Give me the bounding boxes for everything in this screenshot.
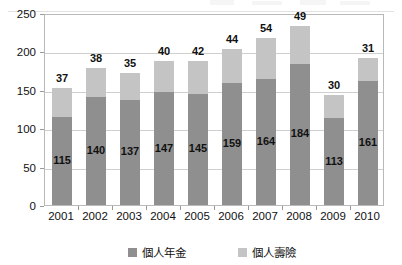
bar-group[interactable]: 14542 — [188, 61, 208, 205]
bar-group[interactable]: 13735 — [120, 73, 140, 205]
bar-segment-life[interactable] — [256, 38, 276, 79]
bar-group[interactable]: 11537 — [52, 88, 72, 205]
bar-value-annuity: 140 — [86, 145, 106, 156]
bar-value-life: 42 — [182, 46, 214, 57]
bar-value-annuity: 137 — [120, 146, 140, 157]
bars-container: 1153714038137351474014542159441645418449… — [45, 15, 383, 205]
y-axis-tick-mark — [40, 206, 44, 207]
bar-value-life: 44 — [216, 34, 248, 45]
bar-value-annuity: 145 — [188, 143, 208, 154]
x-axis-tick-label: 2002 — [82, 210, 108, 222]
bar-group[interactable]: 14740 — [154, 61, 174, 205]
bar-value-life: 30 — [318, 80, 350, 91]
bar-group[interactable]: 16131 — [358, 58, 378, 205]
bar-value-life: 31 — [352, 43, 384, 54]
bar-group[interactable]: 14038 — [86, 68, 106, 205]
bar-value-annuity: 147 — [154, 143, 174, 154]
legend-swatch — [238, 248, 247, 257]
x-axis-tick-mark — [78, 206, 79, 210]
legend-swatch — [128, 248, 137, 257]
y-axis-tick-label: 150 — [2, 85, 36, 97]
x-axis-tick-mark — [350, 206, 351, 210]
bar-value-annuity: 184 — [290, 128, 310, 139]
bar-value-annuity: 159 — [222, 138, 242, 149]
x-axis-tick-label: 2007 — [252, 210, 278, 222]
bar-value-life: 38 — [80, 53, 112, 64]
x-axis-tick-label: 2009 — [320, 210, 346, 222]
legend-item[interactable]: 個人年金 — [128, 245, 186, 259]
x-axis-tick-label: 2005 — [184, 210, 210, 222]
bar-segment-life[interactable] — [290, 26, 310, 64]
x-axis-tick-mark — [248, 206, 249, 210]
bar-segment-life[interactable] — [52, 88, 72, 116]
y-axis-tick-label: 200 — [2, 46, 36, 58]
bar-group[interactable]: 11330 — [324, 95, 344, 205]
x-axis-tick-mark — [180, 206, 181, 210]
x-axis-tick-label: 2010 — [354, 210, 380, 222]
x-axis-tick-mark — [214, 206, 215, 210]
bar-value-life: 37 — [46, 73, 78, 84]
y-axis-tick-label: 100 — [2, 123, 36, 135]
bar-segment-life[interactable] — [222, 49, 242, 83]
bar-value-annuity: 113 — [324, 156, 344, 167]
bar-group[interactable]: 16454 — [256, 38, 276, 205]
y-axis-tick-label: 0 — [2, 200, 36, 212]
x-axis-tick-label: 2006 — [218, 210, 244, 222]
bar-group[interactable]: 18449 — [290, 26, 310, 205]
bar-segment-life[interactable] — [358, 58, 378, 82]
x-axis-tick-mark — [282, 206, 283, 210]
stacked-bar-chart: 050100150200250 115371403813735147401454… — [0, 0, 402, 265]
bar-segment-life[interactable] — [188, 61, 208, 93]
x-axis-tick-label: 2003 — [116, 210, 142, 222]
y-axis-tick-label: 50 — [2, 162, 36, 174]
plot-area: 1153714038137351474014542159441645418449… — [44, 14, 384, 206]
y-axis-tick-label: 250 — [2, 8, 36, 20]
x-axis-tick-mark — [112, 206, 113, 210]
x-axis-tick-label: 2001 — [48, 210, 74, 222]
legend-label: 個人壽險 — [252, 244, 296, 260]
bar-value-annuity: 164 — [256, 136, 276, 147]
bar-segment-life[interactable] — [120, 73, 140, 100]
bar-value-annuity: 115 — [52, 155, 72, 166]
x-axis-tick-label: 2004 — [150, 210, 176, 222]
bar-value-annuity: 161 — [358, 137, 378, 148]
bar-value-life: 54 — [250, 23, 282, 34]
bar-value-life: 49 — [284, 11, 316, 22]
legend-item[interactable]: 個人壽險 — [238, 245, 296, 259]
x-axis-tick-mark — [316, 206, 317, 210]
bar-value-life: 35 — [114, 58, 146, 69]
bar-segment-life[interactable] — [86, 68, 106, 97]
chart-legend: 個人年金個人壽險 — [0, 245, 402, 261]
x-axis-tick-mark — [146, 206, 147, 210]
bar-value-life: 40 — [148, 46, 180, 57]
legend-label: 個人年金 — [142, 244, 186, 260]
bar-group[interactable]: 15944 — [222, 49, 242, 205]
bar-segment-life[interactable] — [154, 61, 174, 92]
x-axis-tick-label: 2008 — [286, 210, 312, 222]
bar-segment-life[interactable] — [324, 95, 344, 118]
